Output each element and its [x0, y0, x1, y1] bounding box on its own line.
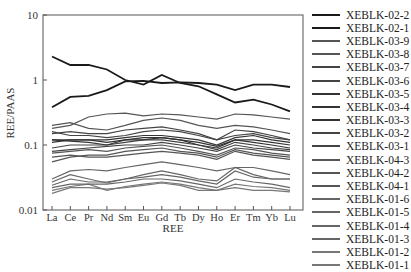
y-tick-label: 10 [27, 9, 39, 21]
legend-label: XEBLK-01-2 [346, 246, 409, 258]
legend-swatch [312, 14, 340, 16]
legend-swatch [312, 225, 340, 227]
legend-item: XEBLK-04-1 [312, 179, 409, 192]
legend-item: XEBLK-03-3 [312, 114, 409, 127]
legend-label: XEBLK-03-3 [346, 114, 409, 126]
legend-label: XEBLK-03-1 [346, 140, 409, 152]
y-axis-label: REE/PAAS [4, 88, 16, 139]
legend-item: XEBLK-04-3 [312, 153, 409, 166]
legend-swatch [312, 211, 340, 213]
legend-label: XEBLK-03-9 [346, 35, 409, 47]
legend-label: XEBLK-02-2 [346, 9, 409, 21]
x-tick-label: Lu [284, 212, 296, 223]
x-tick-label: Er [230, 212, 240, 223]
legend-item: XEBLK-01-4 [312, 219, 409, 232]
series-line [52, 113, 290, 128]
legend-swatch [312, 198, 340, 200]
legend-swatch [312, 159, 340, 161]
legend-item: XEBLK-03-2 [312, 127, 409, 140]
legend-label: XEBLK-03-7 [346, 61, 409, 73]
legend-swatch [312, 53, 340, 55]
legend-label: XEBLK-04-2 [346, 167, 409, 179]
legend-label: XEBLK-04-3 [346, 154, 409, 166]
series-lines [52, 57, 290, 194]
legend-item: XEBLK-02-1 [312, 21, 409, 34]
series-line [52, 182, 290, 190]
legend-item: XEBLK-01-2 [312, 245, 409, 258]
legend-swatch [312, 27, 340, 29]
y-tick-label: 0.01 [19, 204, 38, 216]
x-tick-label: Nd [101, 212, 115, 223]
legend-swatch [312, 66, 340, 68]
x-tick-label: Yb [265, 212, 278, 223]
x-tick-label: Eu [138, 212, 150, 223]
legend-swatch [312, 251, 340, 253]
legend-label: XEBLK-02-1 [346, 22, 409, 34]
legend-item: XEBLK-01-1 [312, 259, 409, 272]
x-tick-label: Sm [118, 212, 132, 223]
legend-label: XEBLK-03-5 [346, 88, 409, 100]
legend-item: XEBLK-03-1 [312, 140, 409, 153]
legend-label: XEBLK-01-5 [346, 206, 409, 218]
legend-item: XEBLK-01-5 [312, 206, 409, 219]
series-line [52, 81, 290, 107]
legend-swatch [312, 93, 340, 95]
legend-label: XEBLK-03-6 [346, 75, 409, 87]
legend-item: XEBLK-03-7 [312, 61, 409, 74]
y-tick-label: 0.1 [24, 139, 38, 151]
x-tick-label: Tm [246, 212, 261, 223]
y-tick-label: 1 [33, 74, 39, 86]
legend-swatch [312, 132, 340, 134]
legend-swatch [312, 80, 340, 82]
legend-swatch [312, 172, 340, 174]
legend-swatch [312, 264, 340, 266]
legend-label: XEBLK-01-6 [346, 193, 409, 205]
legend-swatch [312, 145, 340, 147]
legend-swatch [312, 238, 340, 240]
legend-label: XEBLK-03-8 [346, 48, 409, 60]
legend-swatch [312, 106, 340, 108]
legend-item: XEBLK-01-3 [312, 232, 409, 245]
x-tick-label: La [46, 212, 57, 223]
legend-swatch [312, 119, 340, 121]
legend-item: XEBLK-01-6 [312, 193, 409, 206]
x-tick-label: Ce [64, 212, 76, 223]
x-axis-label: REE [163, 222, 184, 234]
legend-label: XEBLK-01-1 [346, 259, 409, 271]
legend-item: XEBLK-03-8 [312, 48, 409, 61]
legend-label: XEBLK-01-4 [346, 220, 409, 232]
x-tick-label: Dy [192, 212, 206, 223]
legend-item: XEBLK-03-6 [312, 74, 409, 87]
legend-item: XEBLK-03-4 [312, 100, 409, 113]
x-tick-label: Ho [210, 212, 223, 223]
legend-swatch [312, 40, 340, 42]
legend-swatch [312, 185, 340, 187]
legend-item: XEBLK-03-5 [312, 87, 409, 100]
legend-label: XEBLK-01-3 [346, 233, 409, 245]
legend-label: XEBLK-03-4 [346, 101, 409, 113]
legend-item: XEBLK-02-2 [312, 8, 409, 21]
legend-item: XEBLK-04-2 [312, 166, 409, 179]
x-tick-label: Pr [84, 212, 94, 223]
legend-label: XEBLK-03-2 [346, 127, 409, 139]
x-axis: LaCePrNdSmEuGdTbDyHoErTmYbLu [46, 206, 296, 223]
legend-label: XEBLK-04-1 [346, 180, 409, 192]
legend-item: XEBLK-03-9 [312, 34, 409, 47]
legend: XEBLK-02-2XEBLK-02-1XEBLK-03-9XEBLK-03-8… [312, 8, 409, 272]
